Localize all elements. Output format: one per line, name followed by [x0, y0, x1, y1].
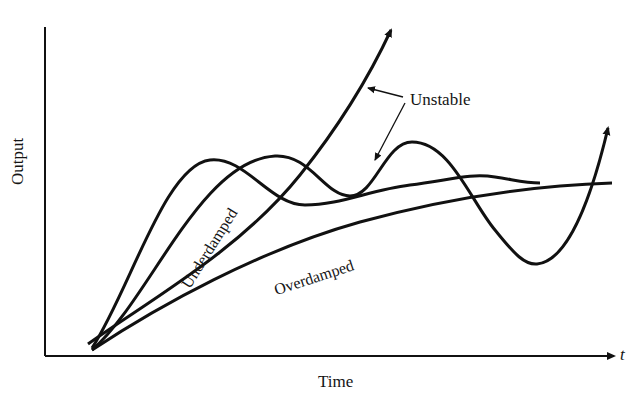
- underdamped-curve: [92, 160, 540, 348]
- diagram-canvas: [0, 0, 642, 409]
- response-diagram: Output Time t Unstable Underdamped Overd…: [0, 0, 642, 409]
- x-axis-symbol: t: [620, 345, 625, 365]
- unstable-oscillating-curve: [92, 128, 608, 350]
- y-axis-label: Output: [8, 138, 28, 185]
- unstable-leader-2: [375, 103, 405, 160]
- unstable-label: Unstable: [410, 90, 470, 110]
- unstable-leader-1: [368, 88, 403, 97]
- x-axis-label: Time: [318, 372, 353, 392]
- unstable-divergent-curve: [88, 30, 391, 344]
